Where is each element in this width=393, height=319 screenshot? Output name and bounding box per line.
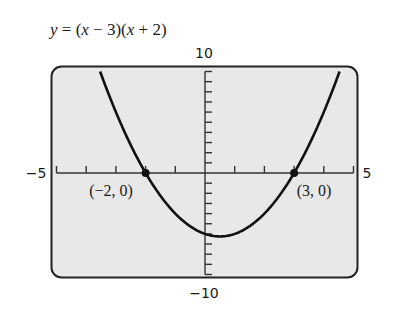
- y-min-label: −10: [189, 285, 219, 301]
- y-max-label: 10: [195, 45, 213, 61]
- graph-window: 10 −10 −5 5 (−2, 0) (3, 0): [0, 0, 393, 319]
- x-min-label: −5: [26, 165, 47, 181]
- x-max-label: 5: [363, 165, 372, 181]
- intercept-point: [142, 169, 150, 177]
- intercept-label-right: (3, 0): [297, 182, 332, 200]
- intercept-point: [290, 169, 298, 177]
- intercept-label-left: (−2, 0): [89, 182, 133, 200]
